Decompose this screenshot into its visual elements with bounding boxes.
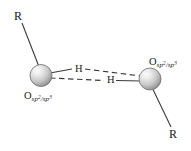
atom-sphere-oxygen-left <box>30 65 52 87</box>
bond-r1-o1 <box>22 23 39 66</box>
label-oxygen-right: Osp2/sp3 <box>149 57 177 69</box>
bond-o2-r2 <box>153 90 171 128</box>
bond-h2-o2 <box>116 81 141 82</box>
hydrogen-bond-diagram: R H H Osp2/sp3 Osp2/sp3 R <box>0 0 191 151</box>
label-oxygen-left: Osp2/sp3 <box>24 91 52 103</box>
label-h-upper: H <box>74 64 84 75</box>
oxygen-right-sub-second-exp: 3 <box>174 60 177 66</box>
oxygen-right-hybridization: sp2/sp3 <box>157 61 177 69</box>
atom-sphere-oxygen-right <box>139 68 161 90</box>
oxygen-left-hybridization: sp2/sp3 <box>32 95 52 103</box>
diagram-canvas <box>0 0 191 151</box>
oxygen-left-sub-second-exp: 3 <box>49 94 52 100</box>
label-h-lower: H <box>106 75 116 86</box>
bond-o1-h1 <box>50 69 72 73</box>
label-r-top-left: R <box>14 10 22 22</box>
label-r-bottom-right: R <box>169 128 177 140</box>
oxygen-left-element: O <box>24 90 32 101</box>
bond-o1-h2 <box>50 78 104 81</box>
oxygen-right-element: O <box>149 56 157 67</box>
